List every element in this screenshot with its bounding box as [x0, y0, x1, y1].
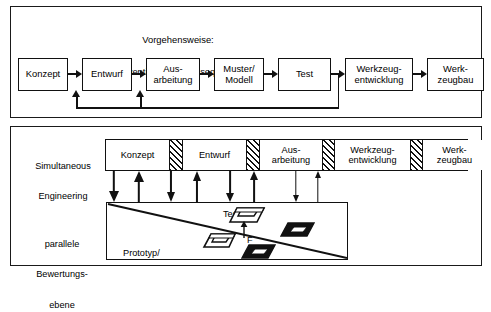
- interaction-arrow-up-3-head: [250, 171, 258, 180]
- flow-arrow-4-shaft: [264, 73, 272, 75]
- part-icon-dark-1: [240, 243, 278, 260]
- phase-werkzeugentwicklung-line2: entwicklung: [348, 155, 396, 165]
- interaction-arrow-down-3-head: [226, 193, 234, 202]
- interaction-arrow-down-1-shaft: [113, 171, 115, 192]
- interaction-arrow-up-2-head: [193, 171, 201, 181]
- interaction-arrow-down-4: [291, 171, 300, 202]
- flow-arrow-6-shaft: [413, 73, 421, 75]
- process-box-test-line1: Test: [296, 69, 313, 80]
- flow-arrow-6-head: [421, 70, 427, 78]
- flow-arrow-2-shaft: [132, 73, 140, 75]
- interaction-arrow-up-3-shaft: [253, 179, 255, 202]
- process-box-werkzeugentwicklung-line2: entwicklung: [355, 75, 404, 86]
- prototype-model-label: Prototyp/ Modell: [123, 227, 160, 260]
- phase-entwurf[interactable]: Entwurf: [183, 140, 246, 170]
- interaction-arrow-up-2-shaft: [195, 180, 197, 202]
- overlap-hatch-3: [322, 140, 335, 170]
- process-box-muster-line2: Modell: [223, 75, 254, 86]
- pbe-label-line3: ebene: [16, 300, 108, 310]
- phase-konzept[interactable]: Konzept: [106, 140, 169, 170]
- phase-werkzeugbau-line2: zeugbau: [437, 155, 472, 165]
- prototyp-line1: Prototyp/: [123, 248, 160, 258]
- interaction-arrow-up-1-head: [134, 171, 144, 182]
- feedback-arrowhead-entwurf: [72, 90, 80, 97]
- phase-konzept-line1: Konzept: [121, 150, 155, 160]
- process-box-entwurf[interactable]: Entwurf: [82, 58, 132, 91]
- se-label-line2: Engineering: [20, 191, 106, 201]
- simultaneous-engineering-label: Simultaneous Engineering: [20, 140, 106, 222]
- se-label-line1: Simultaneous: [20, 161, 106, 171]
- feedback-line-riser-ausarbeitung: [140, 96, 142, 108]
- interaction-arrow-up-4: [313, 171, 322, 202]
- flow-arrow-2-head: [140, 70, 146, 78]
- pbe-label-line1: parallele: [16, 239, 108, 249]
- process-box-werkzeugbau-line1: Werk-: [438, 64, 474, 75]
- interaction-arrow-down-1: [108, 171, 120, 202]
- feedback-line-riser-entwurf: [76, 96, 78, 108]
- process-box-werkzeugentwicklung[interactable]: Werkzeug- entwicklung: [345, 58, 413, 91]
- process-box-ausarbeitung-line2: arbeitung: [153, 75, 192, 86]
- phase-entwurf-line1: Entwurf: [199, 150, 230, 160]
- caption-line-1: Vorgehensweise:: [28, 35, 328, 46]
- phase-bar: Konzept Entwurf Aus- arbeitung Werkzeug-…: [105, 139, 468, 171]
- process-box-konzept[interactable]: Konzept: [18, 58, 68, 91]
- process-box-ausarbeitung[interactable]: Aus- arbeitung: [146, 58, 200, 91]
- flow-arrow-1-shaft: [68, 73, 76, 75]
- parallel-evaluation-plane-label: parallele Bewertungs- ebene: [16, 218, 108, 312]
- process-box-werkzeugentwicklung-line1: Werkzeug-: [355, 64, 404, 75]
- interaction-arrow-up-2: [191, 171, 202, 202]
- process-box-muster-line1: Muster/: [223, 64, 254, 75]
- phase-werkzeugentwicklung-line1: Werkzeug-: [348, 145, 396, 155]
- overlap-hatch-1: [169, 140, 183, 170]
- process-box-werkzeugbau[interactable]: Werk- zeugbau: [427, 58, 484, 91]
- phase-werkzeugbau[interactable]: Werk- zeugbau: [423, 140, 486, 170]
- feedback-line-riser-right: [338, 74, 340, 108]
- process-box-muster-modell[interactable]: Muster/ Modell: [214, 58, 264, 91]
- interaction-arrow-down-4-shaft: [295, 171, 296, 196]
- feedback-line-horizontal: [76, 107, 339, 109]
- process-box-werkzeugbau-line2: zeugbau: [438, 75, 474, 86]
- interaction-arrow-down-4-head: [293, 195, 299, 202]
- part-icon-light-1: [202, 231, 238, 251]
- process-box-konzept-line1: Konzept: [26, 69, 60, 80]
- interaction-arrow-up-4-head: [315, 171, 321, 178]
- phase-werkzeugbau-line1: Werk-: [437, 145, 472, 155]
- evaluation-plane: Prototyp/ Modell Test F: [106, 202, 348, 260]
- process-box-entwurf-line1: Entwurf: [91, 69, 123, 80]
- interaction-arrow-up-4-shaft: [317, 177, 318, 202]
- interaction-arrow-down-1-head: [109, 191, 119, 202]
- interaction-arrow-up-1: [133, 171, 145, 202]
- overlap-hatch-4: [410, 140, 423, 170]
- interaction-arrow-down-3-shaft: [229, 171, 231, 194]
- interaction-arrow-down-2: [165, 171, 176, 202]
- part-icon-dark-2: [279, 221, 317, 239]
- flow-arrow-3-shaft: [200, 73, 208, 75]
- pbe-label-line2: Bewertungs-: [16, 269, 108, 279]
- overlap-hatch-2: [246, 140, 260, 170]
- feedback-arrowhead-ausarbeitung: [136, 90, 144, 97]
- interaction-arrow-down-2-shaft: [169, 171, 171, 193]
- interaction-arrow-down-3: [225, 171, 235, 202]
- flow-arrow-1-head: [76, 70, 82, 78]
- phase-werkzeugentwicklung[interactable]: Werkzeug- entwicklung: [335, 140, 410, 170]
- process-box-test[interactable]: Test: [278, 58, 331, 91]
- interaction-arrow-down-2-head: [167, 192, 175, 202]
- process-box-ausarbeitung-line1: Aus-: [153, 64, 192, 75]
- interaction-arrow-up-3: [249, 171, 259, 202]
- phase-ausarbeitung[interactable]: Aus- arbeitung: [260, 140, 322, 170]
- interaction-arrow-up-1-shaft: [138, 181, 140, 202]
- phase-ausarbeitung-line1: Aus-: [272, 145, 310, 155]
- force-arrow-icon: [239, 221, 249, 238]
- flow-arrow-5-head: [339, 70, 345, 78]
- phase-ausarbeitung-line2: arbeitung: [272, 155, 310, 165]
- flow-arrow-3-head: [208, 70, 214, 78]
- flow-arrow-4-head: [272, 70, 278, 78]
